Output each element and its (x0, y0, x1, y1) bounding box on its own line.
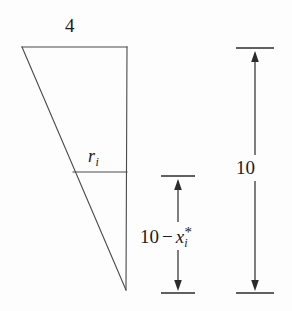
arrow-head-up (251, 51, 259, 62)
height-remaining-lead: 10 (140, 226, 159, 247)
radius-base: r (88, 146, 95, 166)
top-width-label: 4 (65, 16, 75, 35)
geometry-figure: 4 ri 10−xi* 10 (0, 0, 292, 311)
triangle-hypotenuse (22, 47, 126, 290)
height-remaining-label: 10−xi* (138, 224, 194, 250)
figure-canvas (0, 0, 292, 311)
radius-subscript: i (96, 155, 99, 169)
minus-sign: − (162, 226, 173, 247)
triangle-right-edge (126, 47, 127, 290)
height-remaining-variable: x (176, 226, 184, 247)
total-height-label: 10 (234, 157, 257, 178)
arrow-head-down (251, 280, 259, 291)
radius-label: ri (88, 147, 99, 168)
arrow-head-down (174, 280, 182, 291)
arrow-head-up (174, 179, 182, 190)
height-remaining-superscript: * (185, 224, 193, 240)
